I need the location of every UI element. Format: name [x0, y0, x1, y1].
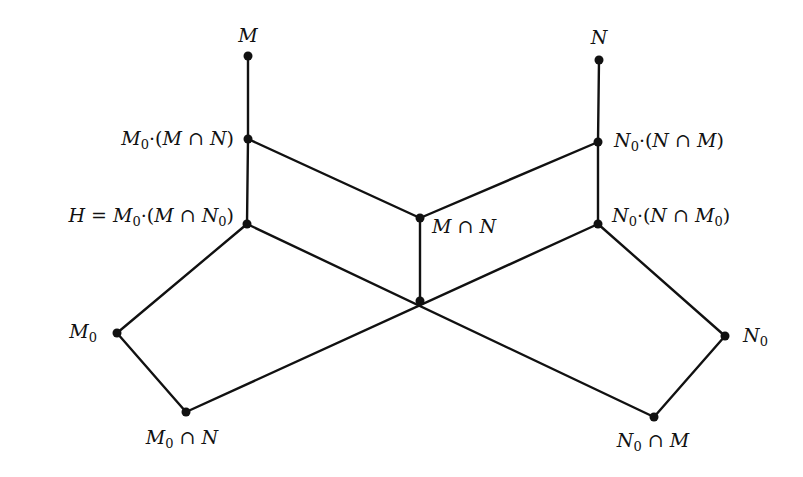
- node-label-H: H = M0·(M ∩ N0): [68, 206, 234, 225]
- node-N: [595, 56, 604, 65]
- lattice-edges: [117, 56, 725, 417]
- edge-H-N0nM: [247, 224, 654, 417]
- node-MN: [416, 214, 425, 223]
- node-label-N0_NM: N0·(N ∩ M): [614, 131, 724, 150]
- node-N0nM: [650, 413, 659, 422]
- node-center: [416, 297, 425, 306]
- node-H: [243, 220, 252, 229]
- edge-M0_MN-MN: [248, 139, 420, 218]
- edge-N0-N0nM: [654, 336, 725, 417]
- node-label-N: N: [591, 28, 608, 47]
- node-label-M0: M0: [69, 322, 97, 341]
- node-N0_NM0: [594, 220, 603, 229]
- edge-M0-M0nN: [117, 333, 186, 412]
- edge-N-N0_NM: [598, 60, 599, 142]
- node-label-N0nM: N0 ∩ M: [617, 431, 689, 450]
- node-label-N0: N0: [743, 326, 768, 345]
- edge-H-M0: [117, 224, 247, 333]
- node-label-M0_MN: M0·(M ∩ N): [121, 129, 234, 148]
- edge-N0_NM-MN: [420, 142, 598, 218]
- node-M0nN: [182, 408, 191, 417]
- node-M: [244, 52, 253, 61]
- node-N0_NM: [594, 138, 603, 147]
- node-label-N0_NM0: N0·(N ∩ M0): [612, 206, 730, 225]
- edge-M0_MN-H: [247, 139, 248, 224]
- edge-N0_NM0-M0nN: [186, 224, 598, 412]
- lattice-diagram: [0, 0, 803, 477]
- node-label-MN: M ∩ N: [432, 217, 496, 236]
- node-N0: [721, 332, 730, 341]
- node-label-M: M: [238, 26, 257, 45]
- edge-N0_NM0-N0: [598, 224, 725, 336]
- node-M0_MN: [244, 135, 253, 144]
- node-M0: [113, 329, 122, 338]
- node-label-M0nN: M0 ∩ N: [146, 428, 218, 447]
